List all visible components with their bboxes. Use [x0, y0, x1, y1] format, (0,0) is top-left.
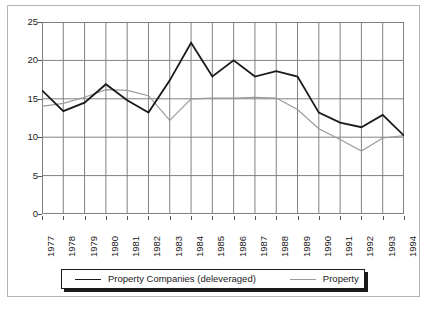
x-tick-mark [234, 216, 235, 220]
legend-item-label: Property Companies (deleveraged) [108, 274, 256, 284]
x-tick-label: 1982 [152, 236, 162, 257]
x-tick-mark [383, 216, 384, 220]
x-tick-label: 1985 [216, 236, 226, 257]
x-tick-label: 1980 [110, 236, 120, 257]
x-tick-mark [148, 216, 149, 220]
x-tick-mark [212, 216, 213, 220]
x-tick-label: 1977 [46, 236, 56, 257]
x-tick-label: 1993 [387, 236, 397, 257]
plot-area [42, 22, 404, 214]
x-tick-label: 1992 [365, 236, 375, 257]
x-tick-mark [63, 216, 64, 220]
x-tick-label: 1983 [174, 236, 184, 257]
series-line [42, 43, 404, 136]
x-axis: 1977197819791980198119821983198419851986… [42, 216, 404, 262]
x-tick-mark [340, 216, 341, 220]
x-tick-mark [319, 216, 320, 220]
x-tick-label: 1994 [408, 236, 418, 257]
legend-item-property: Property [290, 274, 359, 284]
x-tick-mark [170, 216, 171, 220]
x-tick-label: 1981 [131, 236, 141, 257]
y-tick-label: 5 [14, 171, 38, 181]
x-tick-label: 1984 [195, 236, 205, 257]
x-tick-label: 1979 [89, 236, 99, 257]
x-tick-mark [42, 216, 43, 220]
legend-swatch-line [290, 279, 316, 280]
x-tick-label: 1986 [238, 236, 248, 257]
legend-item-property-companies: Property Companies (deleveraged) [75, 274, 256, 284]
x-tick-label: 1991 [344, 236, 354, 257]
x-tick-label: 1978 [67, 236, 77, 257]
x-tick-mark [276, 216, 277, 220]
legend-swatch-line [75, 279, 101, 280]
x-tick-mark [404, 216, 405, 220]
x-tick-mark [127, 216, 128, 220]
x-tick-mark [106, 216, 107, 220]
chart-legend: Property Companies (deleveraged) Propert… [61, 269, 365, 289]
x-tick-mark [191, 216, 192, 220]
x-tick-label: 1988 [280, 236, 290, 257]
y-tick-mark [38, 214, 42, 215]
x-tick-mark [361, 216, 362, 220]
x-tick-mark [255, 216, 256, 220]
y-tick-label: 0 [14, 209, 38, 219]
x-tick-mark [85, 216, 86, 220]
x-tick-label: 1989 [302, 236, 312, 257]
x-tick-label: 1987 [259, 236, 269, 257]
y-tick-label: 15 [14, 94, 38, 104]
legend-item-label: Property [323, 274, 359, 284]
x-tick-label: 1990 [323, 236, 333, 257]
y-tick-label: 20 [14, 55, 38, 65]
y-tick-label: 10 [14, 132, 38, 142]
chart-figure: 0510152025 19771978197919801981198219831… [0, 0, 428, 309]
y-tick-label: 25 [14, 17, 38, 27]
plot-canvas [42, 22, 404, 214]
x-tick-mark [298, 216, 299, 220]
y-axis: 0510152025 [10, 22, 38, 214]
